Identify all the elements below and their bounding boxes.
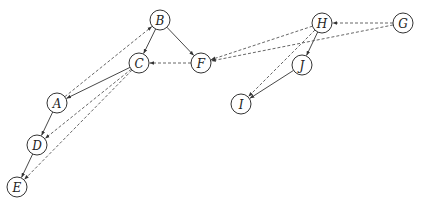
edge-h-to-j [307,32,318,55]
node-h: H [312,13,332,33]
edge-b-to-c [144,29,156,54]
node-j: J [292,55,312,75]
node-label: I [238,98,244,112]
graph-diagram: ABCDEFGHIJ [0,0,422,208]
node-g: G [393,13,413,33]
node-label: F [196,57,206,71]
edge-a-to-d [42,112,53,135]
node-label: C [134,57,143,71]
edge-d-to-e [22,154,33,177]
node-d: D [27,135,47,155]
node-label: B [155,14,165,28]
node-f: F [191,53,211,73]
node-i: I [231,94,251,114]
edge-j-to-i [250,70,294,98]
node-label: H [316,17,328,31]
node-a: A [47,93,67,113]
node-b: B [150,10,170,30]
edge-c-to-a [66,67,130,98]
node-e: E [7,177,27,197]
node-c: C [129,53,149,73]
edge-c-to-e [24,70,132,179]
graph-canvas: ABCDEFGHIJ [0,0,422,208]
edge-h-to-f [211,26,313,60]
edges-layer [22,23,394,180]
node-label: A [52,97,62,111]
edge-b-to-f [167,27,194,55]
node-label: G [398,17,408,31]
nodes-layer: ABCDEFGHIJ [7,10,413,197]
node-label: D [31,139,42,153]
node-label: E [12,181,22,195]
